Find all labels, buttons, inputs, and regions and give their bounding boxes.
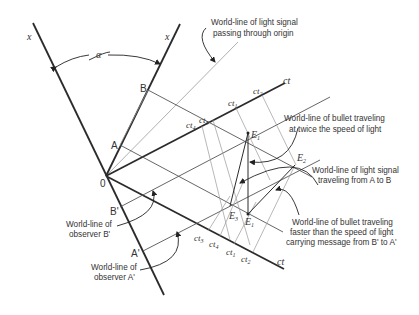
- lower-tick-ct4: ct4: [209, 239, 219, 250]
- x-axis-left: [33, 23, 164, 295]
- annotation-bullet-ftl-3: carrying message from B' to A': [286, 238, 397, 247]
- event-E2-label: E2: [296, 152, 306, 164]
- lower-tick-ct1: ct1: [226, 247, 236, 258]
- upper-tick-ct2: ct2: [253, 86, 263, 97]
- lower-tick-ct2: ct2: [241, 254, 251, 265]
- minkowski-diagram: x x α 0 ct ct B A B' A' E1 E2 E3 E1 ct4 …: [0, 0, 419, 315]
- point-A-label: A: [111, 140, 118, 151]
- event-E1-upper-label: E1: [250, 129, 260, 141]
- x-right-label: x: [164, 31, 170, 42]
- ct-upper-axis-label: ct: [283, 75, 290, 86]
- point-A-prime-label: A': [131, 248, 140, 259]
- annotation-light-origin-2: passing through origin: [213, 29, 294, 38]
- point-B-prime-label: B': [110, 206, 119, 217]
- lower-tick-ct3: ct3: [194, 233, 204, 244]
- annotation-observer-A-1: World-line of: [91, 263, 138, 272]
- annotation-observer-A-2: observer A': [94, 273, 135, 282]
- worldline-A: [120, 145, 283, 232]
- bullet-ftl-worldline: [248, 165, 295, 214]
- x-left-label: x: [26, 31, 32, 42]
- event-E3-label: E3: [228, 210, 238, 222]
- upper-tick-ct1: ct1: [228, 98, 238, 109]
- origin-label: 0: [100, 178, 106, 189]
- lower-tick-line-4: [220, 180, 244, 236]
- annotation-light-AB-1: World-line of light signal: [312, 166, 399, 175]
- angle-alpha-label: α: [96, 49, 102, 60]
- ct-lower-axis-label: ct: [277, 256, 284, 267]
- annotation-bullet-2c-1: World-line of bullet traveling: [284, 114, 385, 123]
- point-B-label: B: [140, 83, 147, 94]
- annotation-bullet-2c-2: at twice the speed of light: [289, 125, 382, 134]
- annotation-observer-B-2: observer B': [69, 230, 111, 239]
- annotation-light-origin-1: World-line of light signal: [211, 18, 298, 27]
- annotation-observer-B-1: World-line of: [66, 220, 113, 229]
- upper-tick-ct4: ct4: [186, 120, 196, 131]
- event-E1-upper-dot: [247, 132, 250, 135]
- annotation-light-AB-2: traveling from A to B: [318, 176, 392, 185]
- annotation-bullet-ftl-2: faster than the speed of light: [290, 228, 394, 237]
- event-E1-lower-label: E1: [244, 216, 254, 228]
- upper-tick-ct3: ct3: [199, 115, 209, 126]
- annotation-bullet-ftl-1: World-line of bullet traveling: [292, 218, 393, 227]
- arrow-observer-A: [140, 232, 178, 270]
- bullet-2c-worldline: [230, 133, 248, 206]
- arrow-bullet-ftl: [276, 189, 299, 215]
- light-signal-A-to-B: [120, 90, 148, 145]
